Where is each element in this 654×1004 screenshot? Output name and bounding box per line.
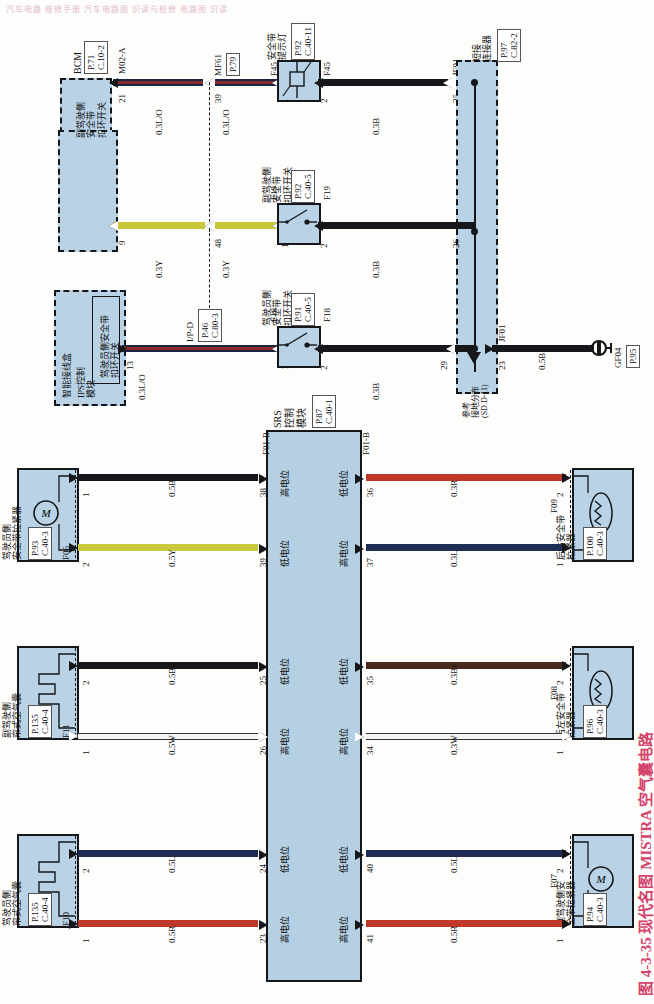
rear-left-pin-bottom: 1 [556, 751, 565, 756]
srs-left-term-4 [259, 850, 268, 860]
wire-passenger-buckle-1-code: 0.3Y [155, 260, 164, 278]
srs-left-potential-5: 高电位 [281, 916, 290, 943]
driver-curtain-term-bottom [69, 919, 78, 929]
srs-right-potential-2: 低电位 [340, 658, 349, 685]
driver-pretensioner-term-top [69, 473, 78, 483]
passenger-curtain-airbag-title: 副驾驶侧帘式空气囊 [2, 693, 23, 738]
driver-pretensioner-pin-bottom: 2 [82, 563, 91, 568]
rear-right-conn-box: P.100 C.40-3 [583, 527, 607, 560]
passenger-curtain-term-bottom [69, 731, 78, 741]
wire-rear-left-bottom-code: 0.3W [450, 735, 459, 755]
driver-curtain-conn-box: P.135 C.40-4 [28, 893, 52, 926]
wire-driver-out-code: 0.3B [372, 383, 381, 400]
passenger-switch-pin-left: 1 [281, 244, 290, 249]
srs-right-pin-1: 37 [366, 558, 375, 567]
wire-passenger-buckle-1 [113, 222, 205, 229]
srs-left-potential-1: 低电位 [281, 540, 290, 567]
ground-pin-23: 23 [498, 361, 507, 370]
rear-right-conn: C.40-3 [595, 531, 605, 556]
srs-left-pin-5: 23 [259, 934, 268, 943]
passenger-switch-conn-left: F19 [270, 186, 279, 200]
srs-right-pin-4: 40 [366, 864, 375, 873]
driver-buckle-wire-name: I/P-D [186, 322, 195, 342]
srs-right-pin-5: 41 [366, 934, 375, 943]
rear-right-term-bottom [562, 543, 571, 553]
wire-driver-buckle-code: 0.3L/O [138, 374, 147, 400]
wire-ground [492, 345, 594, 352]
bcm-pin-21: 21 [118, 94, 127, 103]
wire-driver-curtain-top-code: 0.5L [168, 856, 177, 873]
rear-left-term-bottom [562, 731, 571, 741]
srs-right-potential-5: 高电位 [340, 916, 349, 943]
srs-title-2: 控制 [284, 408, 296, 428]
srs-left-pin-3: 26 [259, 746, 268, 755]
srs-right-term-4 [355, 850, 364, 860]
jf01-label-bottom: JF01 [498, 324, 507, 342]
driver-curtain-term-top [69, 849, 78, 859]
driver-switch-pin2-terminal [314, 344, 323, 354]
driver-switch-conn-left: F18 [270, 308, 279, 322]
srs-right-term-5 [355, 920, 364, 930]
wire-rear-right-top-code: 0.3R [450, 480, 459, 497]
srs-right-potential-4: 低电位 [340, 846, 349, 873]
srs-conn: C.40-1 [324, 399, 334, 424]
driver-curtain-airbag-title: 驾驶员侧帘式空气囊 [2, 881, 23, 926]
srs-page: P.87 [314, 399, 324, 424]
wire-passenger-out-code: 0.3B [372, 261, 381, 278]
passenger-pretensioner-conn: C.40-3 [595, 897, 605, 922]
driver-out-terminal [446, 344, 455, 354]
ground-ref-note: 参考接地分布(SD.D-11) [462, 384, 490, 418]
bcm-connector-box: P.71 C.10-2 [84, 41, 108, 74]
seatbelt-lamp-title: 安全带提示灯 [267, 33, 288, 60]
srs-right-term-3 [355, 732, 364, 742]
jf01-pin25-terminal [443, 78, 452, 88]
srs-left-pin-0: 38 [259, 488, 268, 497]
srs-left-pin-4: 24 [259, 864, 268, 873]
srs-right-pin-3: 34 [366, 746, 375, 755]
driver-buckle-group-terminal [118, 344, 127, 354]
figure-caption: 图 4-3-35 现代名图 MISTRA 空气囊电路 [634, 732, 654, 996]
passenger-curtain-pin-bottom: 1 [82, 751, 91, 756]
short-connector-bus [474, 82, 476, 372]
bcm-page: P.71 [86, 45, 96, 70]
driver-curtain-pin-bottom: 1 [82, 939, 91, 944]
wire-rear-left-bottom [366, 733, 566, 740]
driver-pretensioner-conn-box: P.93 C.40-3 [28, 527, 52, 560]
srs-right-potential-3: 高电位 [340, 728, 349, 755]
srs-right-term-2 [355, 662, 364, 672]
seatbelt-lamp-conn: C.40-11 [303, 27, 313, 56]
srs-right-term-1 [355, 544, 364, 554]
seatbelt-lamp-page: P.92 [293, 27, 303, 56]
passenger-pretensioner-term-top [562, 849, 571, 859]
seatbelt-lamp-symbol [277, 60, 317, 98]
driver-buckle-switch-symbol [277, 326, 317, 364]
wire-sbr-1 [113, 79, 203, 86]
srs-left-pin-2: 25 [259, 676, 268, 685]
page-header: 汽车电路 维修手册 汽车电路图 识读与检修 电路图 识读 [6, 3, 228, 14]
wire-passenger-buckle-2 [215, 222, 277, 229]
driver-curtain-page: P.135 [30, 897, 40, 922]
wire-passenger-buckle-2-code: 0.3Y [222, 260, 231, 278]
rear-right-pin-top: 2 [556, 493, 565, 498]
wire-passenger-switch-out [318, 222, 474, 229]
srs-control-module [266, 430, 362, 982]
ground-page: P.95 [628, 349, 638, 364]
passenger-curtain-pin-top: 2 [82, 681, 91, 686]
passenger-switch-conn-right: F19 [323, 186, 332, 200]
short-connector-conn-box: P.97 C.82-2 [497, 29, 521, 62]
passenger-buckle-switch-symbol [277, 203, 317, 241]
srs-left-term-1 [259, 544, 268, 554]
wire-passenger-curtain-top-code: 0.5B [168, 668, 177, 685]
wire-driver-buckle-in [122, 345, 277, 352]
driver-switch-pin-left: 1 [281, 366, 290, 371]
rear-left-connector: F08 [550, 686, 559, 700]
bcm-pin21-terminal [109, 78, 118, 88]
seatbelt-lamp-pin-left: 1 [281, 99, 290, 104]
driver-buckle-wire-conn: C.80-3 [210, 313, 220, 338]
passenger-pretensioner-connector: F07 [550, 874, 559, 888]
srs-left-potential-4: 低电位 [281, 846, 290, 873]
short-connector-title: 短接连接器 [472, 35, 493, 62]
srs-left-term-0 [259, 474, 268, 484]
passenger-pretensioner-pin-top: 2 [556, 869, 565, 874]
passenger-curtain-conn: C.40-4 [40, 709, 50, 734]
